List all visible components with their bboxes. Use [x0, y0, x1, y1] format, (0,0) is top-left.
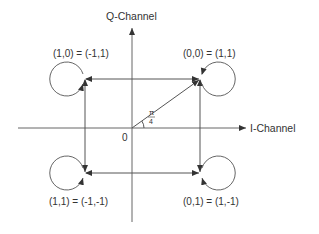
origin-label: 0	[122, 132, 128, 143]
loop-bottom-left	[50, 156, 83, 190]
point-label-bottom-right: (0,1) = (1,-1)	[183, 196, 239, 207]
loop-top-left	[50, 62, 83, 96]
loop-top-right	[202, 62, 235, 96]
point-label-top-right: (0,0) = (1,1)	[183, 48, 236, 59]
constellation-diagram: Q-Channel I-Channel 0 π 4 (1,0) = (-1,1)…	[0, 0, 319, 234]
i-channel-label: I-Channel	[250, 122, 296, 134]
angle-denominator: 4	[149, 118, 153, 125]
angle-arc	[142, 121, 144, 128]
q-channel-label: Q-Channel	[106, 10, 157, 22]
point-label-top-left: (1,0) = (-1,1)	[53, 48, 109, 59]
phase-vector	[132, 80, 199, 128]
angle-numerator: π	[149, 108, 154, 117]
point-label-bottom-left: (1,1) = (-1,-1)	[49, 196, 108, 207]
loop-bottom-right	[202, 156, 235, 190]
